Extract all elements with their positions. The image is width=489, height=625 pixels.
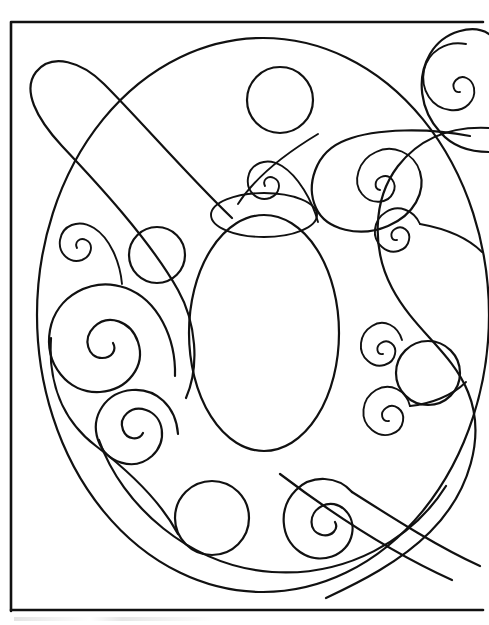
line-art-illustration <box>0 0 489 625</box>
right-lower-spiral-two <box>363 387 410 435</box>
top-circle <box>247 67 313 133</box>
right-mid-connector <box>420 224 482 252</box>
coloring-page-screenshot <box>0 0 489 625</box>
left-large-spiral <box>49 284 175 392</box>
right-mid-spiral <box>375 208 420 251</box>
upper-right-spiral <box>357 149 420 202</box>
lower-left-wing-sweep <box>51 338 178 534</box>
bottom-wing-arc <box>99 440 446 572</box>
upper-right-blob <box>312 130 470 231</box>
large-outer-oval <box>37 38 489 592</box>
left-antenna-loop <box>30 61 232 398</box>
artboard <box>0 0 489 625</box>
left-upper-spiral <box>60 224 122 284</box>
center-body-oval <box>189 215 339 451</box>
bottom-left-spiral <box>96 390 178 464</box>
left-middle-circle <box>129 227 185 283</box>
scan-artifact-strip <box>14 617 214 621</box>
right-lower-spiral <box>361 323 402 366</box>
bottom-right-tail-band-edge <box>352 492 480 566</box>
center-top-spiral <box>248 162 318 222</box>
bottom-right-tail-band <box>280 474 452 580</box>
